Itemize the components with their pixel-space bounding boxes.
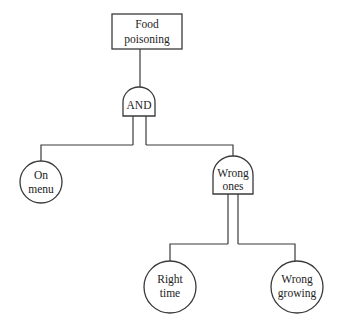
connector-to-on-menu xyxy=(41,145,133,161)
top-event-label-line1: Food xyxy=(135,18,159,30)
gate-wrong-ones: Wrong ones xyxy=(213,156,253,194)
event-right-time-line1: Right xyxy=(157,273,183,286)
gate-wrong-ones-line1: Wrong xyxy=(217,167,249,180)
event-on-menu-line2: menu xyxy=(28,183,54,195)
top-event-label-line2: poisoning xyxy=(124,33,170,46)
event-wrong-growing-line1: Wrong xyxy=(281,273,313,286)
connectors xyxy=(41,49,295,261)
event-right-time: Right time xyxy=(144,261,196,313)
event-wrong-growing: Wrong growing xyxy=(271,261,323,313)
connector-to-wrong-growing xyxy=(238,244,295,261)
gate-wrong-ones-line2: ones xyxy=(222,180,244,192)
fault-tree-diagram: Food poisoning AND On menu Wrong ones Ri… xyxy=(0,0,338,322)
event-right-time-line2: time xyxy=(160,287,180,299)
connector-to-wrong-ones xyxy=(146,145,233,156)
top-event-food-poisoning: Food poisoning xyxy=(112,14,182,49)
event-on-menu-line1: On xyxy=(34,169,48,181)
connector-to-right-time xyxy=(170,244,228,261)
event-on-menu-circle xyxy=(20,161,62,203)
and-gate-label: AND xyxy=(127,99,152,111)
event-wrong-growing-line2: growing xyxy=(278,287,317,300)
event-on-menu: On menu xyxy=(20,161,62,203)
and-gate: AND xyxy=(123,87,155,116)
